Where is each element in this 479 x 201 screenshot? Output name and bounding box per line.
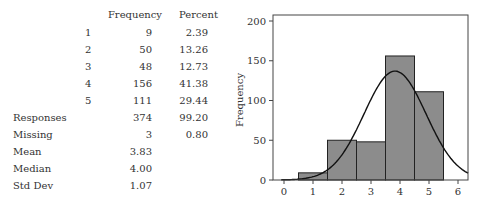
bar bbox=[386, 56, 415, 180]
x-tick-label: 5 bbox=[426, 186, 432, 197]
histogram-bars bbox=[299, 56, 444, 180]
x-tick-label: 6 bbox=[455, 186, 461, 197]
histogram-chart: 0 50 100 150 200 0 1 2 3 4 5 6 Frequency bbox=[0, 0, 479, 201]
y-tick-label: 50 bbox=[253, 135, 266, 146]
bar bbox=[415, 92, 444, 180]
x-tick-label: 4 bbox=[397, 186, 403, 197]
x-axis: 0 1 2 3 4 5 6 bbox=[281, 180, 461, 197]
y-tick-label: 0 bbox=[260, 175, 266, 186]
bar bbox=[357, 142, 386, 180]
y-axis: 0 50 100 150 200 bbox=[247, 16, 273, 186]
x-tick-label: 0 bbox=[281, 186, 287, 197]
x-tick-label: 1 bbox=[310, 186, 316, 197]
x-tick-label: 2 bbox=[339, 186, 345, 197]
y-tick-label: 150 bbox=[247, 55, 266, 66]
x-tick-label: 3 bbox=[368, 186, 374, 197]
bar bbox=[328, 140, 357, 180]
y-axis-label: Frequency bbox=[234, 73, 245, 127]
y-tick-label: 100 bbox=[247, 95, 266, 106]
y-tick-label: 200 bbox=[247, 16, 266, 27]
